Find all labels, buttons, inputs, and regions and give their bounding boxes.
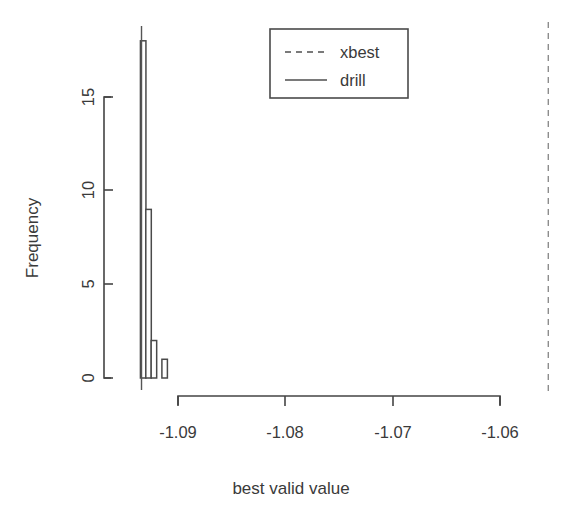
histogram-bar — [162, 359, 168, 378]
x-tick-label-2: -1.08 — [266, 423, 304, 441]
legend: xbest drill — [270, 29, 408, 98]
x-tick-label-3: -1.07 — [374, 423, 412, 441]
x-tick-label-4: -1.06 — [481, 423, 519, 441]
x-tick-label-1: -1.09 — [159, 423, 197, 441]
x-axis-title: best valid value — [232, 479, 349, 498]
legend-label-drill: drill — [340, 71, 366, 89]
y-tick-label-10: 10 — [79, 181, 97, 199]
legend-label-xbest: xbest — [340, 43, 380, 61]
y-tick-label-15: 15 — [79, 88, 97, 106]
legend-box — [270, 29, 408, 98]
histogram-bar — [151, 341, 157, 378]
y-tick-label-0: 0 — [79, 373, 97, 382]
y-axis-title: Frequency — [23, 197, 42, 278]
y-tick-label-5: 5 — [79, 279, 97, 288]
histogram-chart: 15 10 5 0 Frequency -1.09 -1.08 -1.07 -1… — [0, 0, 568, 518]
